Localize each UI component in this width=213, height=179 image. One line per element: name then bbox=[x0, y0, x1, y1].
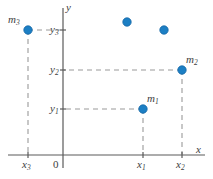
y-tick-label-y3: y3 bbox=[50, 24, 59, 37]
point-dot-upper-right[interactable] bbox=[160, 26, 168, 34]
point-label-m1: m1 bbox=[147, 93, 159, 106]
point-dot-upper-left[interactable] bbox=[123, 18, 131, 26]
y-tick-label-y1: y1 bbox=[50, 103, 59, 116]
dashed-guide-lines bbox=[28, 30, 182, 155]
y-axis-label: y bbox=[66, 2, 71, 13]
point-m2[interactable] bbox=[178, 66, 186, 74]
x-tick-label-x1: x1 bbox=[137, 159, 146, 172]
point-label-m2: m2 bbox=[186, 54, 198, 67]
data-points-group bbox=[24, 18, 186, 113]
x-tick-label-x2: x2 bbox=[176, 159, 185, 172]
origin-label: 0 bbox=[53, 159, 59, 170]
y-tick-label-y2: y2 bbox=[50, 64, 59, 77]
x-axis-label: x bbox=[196, 144, 201, 155]
point-label-m3: m3 bbox=[8, 14, 20, 27]
axis-tick-marks bbox=[28, 30, 182, 158]
point-m1[interactable] bbox=[139, 105, 147, 113]
figure-coordinate-plane: yx0x3x1x2y3y2y1m3m2m1 bbox=[0, 0, 213, 179]
x-tick-label-x3: x3 bbox=[22, 159, 31, 172]
axes-group bbox=[8, 8, 205, 168]
figure-canvas bbox=[0, 0, 213, 179]
point-m3[interactable] bbox=[24, 26, 32, 34]
